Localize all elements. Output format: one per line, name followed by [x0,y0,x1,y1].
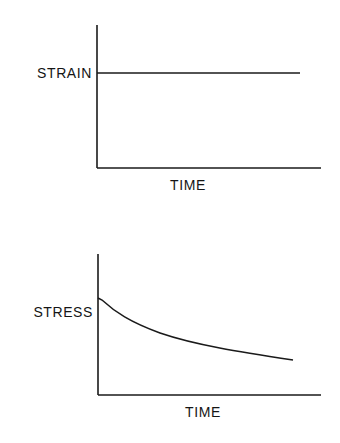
stress-decay-curve [98,298,293,360]
stress-y-label: STRESS [33,304,93,320]
stress-relaxation-diagram: STRAIN TIME STRESS TIME [0,0,340,443]
strain-time-panel: STRAIN TIME [37,25,321,193]
stress-x-label: TIME [185,404,221,420]
stress-time-panel: STRESS TIME [33,254,321,420]
strain-y-label: STRAIN [37,65,92,81]
strain-x-label: TIME [170,177,206,193]
